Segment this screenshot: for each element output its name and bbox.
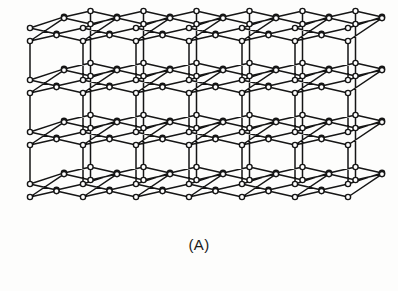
atom-node: [379, 16, 384, 21]
atom-node: [345, 194, 350, 199]
atom-node: [247, 112, 252, 117]
atom-node: [107, 33, 112, 38]
atom-node: [133, 194, 138, 199]
atom-node: [213, 189, 218, 194]
figure-container: (A): [0, 0, 398, 291]
atom-node: [133, 38, 138, 43]
atom-node: [292, 194, 297, 199]
atom-node: [300, 164, 305, 169]
atom-node: [27, 77, 32, 82]
atom-node: [167, 68, 172, 73]
atom-node: [160, 85, 165, 90]
atom-node: [27, 25, 32, 30]
atom-node: [88, 21, 93, 26]
atom-node: [353, 164, 358, 169]
atom-node: [141, 73, 146, 78]
atom-node: [300, 60, 305, 65]
atom-node: [88, 73, 93, 78]
atom-node: [160, 189, 165, 194]
atom-node: [292, 77, 297, 82]
atom-node: [133, 181, 138, 186]
atom-node: [133, 90, 138, 95]
atom-node: [194, 73, 199, 78]
atom-node: [239, 129, 244, 134]
atom-node: [300, 73, 305, 78]
atom-node: [194, 60, 199, 65]
atom-node: [319, 85, 324, 90]
atom-node: [133, 129, 138, 134]
atom-node: [353, 60, 358, 65]
atom-node: [300, 21, 305, 26]
atom-node: [186, 129, 191, 134]
atom-node: [273, 120, 278, 125]
atom-node: [194, 21, 199, 26]
atom-node: [326, 68, 331, 73]
atom-node: [54, 189, 59, 194]
atom-node: [27, 194, 32, 199]
atom-node: [27, 142, 32, 147]
atom-node: [88, 177, 93, 182]
atom-node: [27, 129, 32, 134]
atom-node: [186, 77, 191, 82]
atom-node: [213, 85, 218, 90]
atom-node: [88, 125, 93, 130]
atom-node: [141, 177, 146, 182]
atom-node: [186, 90, 191, 95]
figure-caption: (A): [0, 236, 398, 253]
atom-node: [273, 16, 278, 21]
atom-node: [292, 181, 297, 186]
atom-node: [292, 25, 297, 30]
atom-node: [239, 194, 244, 199]
atom-node: [80, 90, 85, 95]
atom-node: [107, 85, 112, 90]
atom-node: [88, 60, 93, 65]
atom-node: [27, 181, 32, 186]
atom-node: [266, 85, 271, 90]
atom-node: [326, 120, 331, 125]
atom-node: [141, 164, 146, 169]
atom-node: [300, 112, 305, 117]
atom-node: [194, 164, 199, 169]
atom-node: [353, 125, 358, 130]
atom-node: [345, 38, 350, 43]
atom-node: [353, 8, 358, 13]
atom-node: [133, 25, 138, 30]
atom-node: [27, 90, 32, 95]
atom-node: [379, 68, 384, 73]
atom-node: [239, 77, 244, 82]
atom-node: [88, 112, 93, 117]
atom-node: [167, 120, 172, 125]
atom-node: [213, 137, 218, 142]
atom-node: [326, 172, 331, 177]
atom-node: [300, 125, 305, 130]
atom-node: [239, 25, 244, 30]
atom-node: [247, 60, 252, 65]
atom-node: [345, 142, 350, 147]
atom-node: [379, 172, 384, 177]
atom-node: [292, 142, 297, 147]
atom-node: [114, 120, 119, 125]
atom-node: [61, 68, 66, 73]
atom-node: [345, 25, 350, 30]
atom-node: [133, 142, 138, 147]
atom-node: [114, 16, 119, 21]
atom-node: [186, 142, 191, 147]
atom-node: [107, 137, 112, 142]
atom-node: [213, 33, 218, 38]
atom-node: [247, 8, 252, 13]
atom-node: [141, 21, 146, 26]
atom-node: [345, 90, 350, 95]
atom-node: [319, 189, 324, 194]
atom-node: [273, 172, 278, 177]
atom-node: [61, 16, 66, 21]
atom-node: [167, 16, 172, 21]
atom-node: [114, 172, 119, 177]
atom-node: [141, 8, 146, 13]
atom-node: [345, 77, 350, 82]
atom-node: [114, 68, 119, 73]
atom-node: [247, 125, 252, 130]
atom-node: [300, 8, 305, 13]
atom-node: [194, 8, 199, 13]
atom-node: [247, 73, 252, 78]
atom-node: [80, 181, 85, 186]
